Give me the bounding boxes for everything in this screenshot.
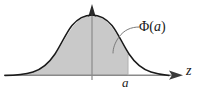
phi-argument: a (154, 19, 161, 34)
distribution-plot-svg (0, 0, 205, 93)
phi-of-a-label: Φ(a) (139, 20, 166, 34)
phi-symbol: Φ( (139, 19, 154, 34)
phi-paren-close: ) (161, 19, 166, 34)
threshold-tick-label: a (122, 76, 129, 89)
z-axis-label: z (186, 64, 191, 78)
normal-distribution-figure: Φ(a) a z (0, 0, 205, 93)
